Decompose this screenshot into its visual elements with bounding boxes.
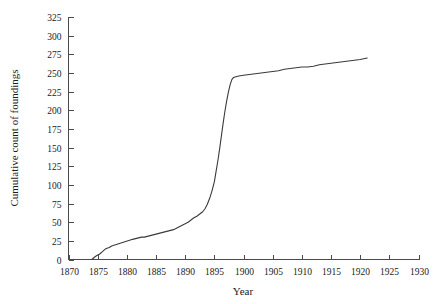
- y-tick-label: 200: [47, 106, 62, 116]
- data-series-line: [92, 58, 367, 259]
- x-tick-label: 1900: [235, 267, 254, 277]
- y-axis-ticks: 0255075100125150175200225250275300325: [47, 13, 73, 266]
- chart-container: 1870187518801885189018951900190519101915…: [0, 0, 438, 304]
- x-tick-label: 1880: [118, 267, 137, 277]
- x-axis-title: Year: [233, 285, 254, 297]
- y-tick-label: 0: [57, 256, 62, 266]
- y-tick-label: 300: [47, 32, 62, 42]
- x-tick-label: 1915: [322, 267, 341, 277]
- y-tick-label: 175: [47, 125, 62, 135]
- y-tick-label: 25: [52, 237, 62, 247]
- y-tick-label: 125: [47, 162, 62, 172]
- y-tick-label: 150: [47, 144, 62, 154]
- y-tick-label: 275: [47, 50, 62, 60]
- x-tick-label: 1910: [293, 267, 312, 277]
- x-tick-label: 1870: [60, 267, 79, 277]
- y-tick-label: 75: [52, 200, 62, 210]
- y-tick-label: 325: [47, 13, 62, 23]
- y-axis-title: Cumulative count of foundings: [8, 69, 20, 206]
- x-tick-label: 1875: [89, 267, 108, 277]
- x-tick-label: 1920: [351, 267, 370, 277]
- x-tick-label: 1890: [176, 267, 195, 277]
- x-tick-label: 1925: [380, 267, 399, 277]
- x-axis-ticks: 1870187518801885189018951900190519101915…: [60, 255, 429, 277]
- cumulative-foundings-line-chart: 1870187518801885189018951900190519101915…: [0, 0, 438, 304]
- y-tick-label: 50: [52, 218, 62, 228]
- y-tick-label: 100: [47, 181, 62, 191]
- y-tick-label: 250: [47, 69, 62, 79]
- y-tick-label: 225: [47, 88, 62, 98]
- x-tick-label: 1895: [205, 267, 224, 277]
- axes-group: [69, 17, 419, 260]
- x-tick-label: 1885: [147, 267, 166, 277]
- x-tick-label: 1930: [410, 267, 429, 277]
- x-tick-label: 1905: [264, 267, 283, 277]
